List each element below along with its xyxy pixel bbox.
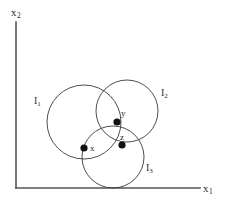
set-label-subscript: 3	[149, 167, 153, 175]
point-label-y: y	[121, 108, 126, 118]
figure-canvas: x2 x1 I1I2I3 xyz	[0, 0, 228, 204]
set-label-i3: I3	[146, 162, 153, 173]
x-axis-label-subscript: 1	[209, 187, 213, 196]
set-circles-group	[47, 80, 158, 188]
point-label-z: z	[120, 132, 124, 142]
x-axis-label: x1	[203, 182, 212, 194]
y-axis-label-subscript: 2	[17, 11, 21, 20]
point-label-x: x	[90, 143, 95, 153]
data-point-x	[80, 144, 87, 151]
data-point-z	[118, 141, 125, 148]
x-axis-label-base: x	[203, 182, 209, 194]
axis-group	[16, 22, 200, 188]
set-circle-i3	[82, 126, 144, 188]
data-point-y	[113, 118, 120, 125]
y-axis-label-base: x	[11, 6, 17, 18]
set-circle-i2	[96, 80, 158, 142]
set-label-subscript: 1	[37, 100, 41, 108]
y-axis-label: x2	[11, 6, 20, 18]
set-label-i2: I2	[161, 87, 168, 98]
set-label-i1: I1	[34, 95, 41, 106]
set-label-subscript: 2	[164, 92, 168, 100]
